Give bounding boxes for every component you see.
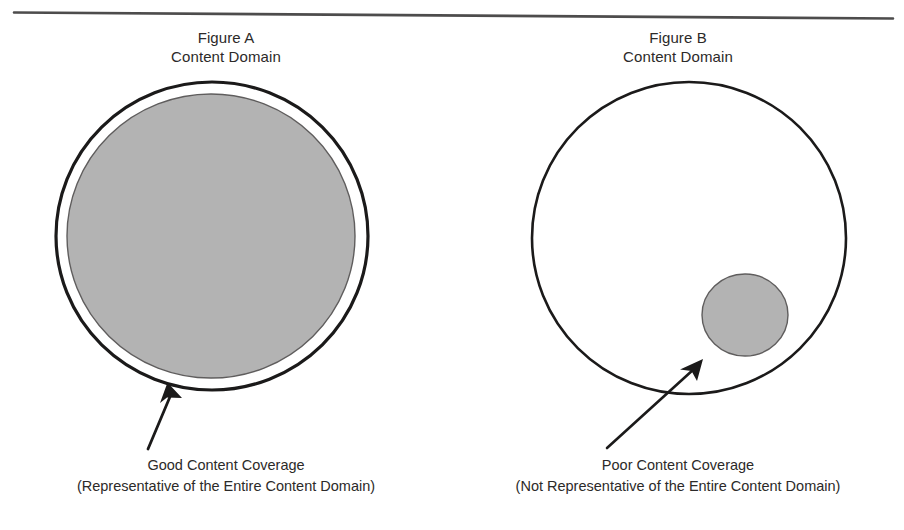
panel-figure-b: Figure B Content Domain Poor Content Cov… <box>452 0 904 530</box>
figure-a-caption-line-2: (Representative of the Entire Content Do… <box>0 476 452 497</box>
figure-a-title-line-1: Figure A <box>0 28 452 47</box>
figure-a-caption-line-1: Good Content Coverage <box>0 455 452 476</box>
figure-b-title-line-2: Content Domain <box>452 47 904 66</box>
figure-b-title-line-1: Figure B <box>452 28 904 47</box>
figure-a-title-line-2: Content Domain <box>0 47 452 66</box>
figure-b-caption-line-2: (Not Representative of the Entire Conten… <box>452 476 904 497</box>
panel-figure-a: Figure A Content Domain Good Content Cov… <box>0 0 452 530</box>
figure-b-caption-line-1: Poor Content Coverage <box>452 455 904 476</box>
figure-a-caption: Good Content Coverage (Representative of… <box>0 455 452 497</box>
figure-b-title: Figure B Content Domain <box>452 28 904 66</box>
diagram-canvas: Figure A Content Domain Good Content Cov… <box>0 0 904 530</box>
figure-a-title: Figure A Content Domain <box>0 28 452 66</box>
figure-b-caption: Poor Content Coverage (Not Representativ… <box>452 455 904 497</box>
